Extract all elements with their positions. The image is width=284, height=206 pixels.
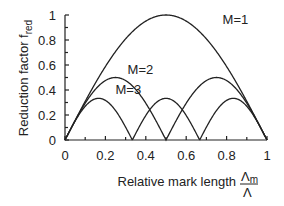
x-axis-label-fraction: Λm Λ	[240, 169, 258, 200]
curve-m2	[65, 78, 267, 141]
y-tick-label: 0.6	[38, 58, 56, 73]
reduction-factor-chart: 00.20.40.60.8100.20.40.60.81 M=1M=2M=3 R…	[0, 0, 284, 206]
x-tick-label: 0.4	[137, 148, 155, 163]
axis-lines	[65, 15, 267, 140]
y-axis-label: Reduction factor fred	[16, 20, 34, 136]
x-tick-label: 0.2	[96, 148, 114, 163]
curve-m3	[65, 98, 267, 140]
y-tick-label: 0.2	[38, 108, 56, 123]
series-label: M=3	[116, 82, 142, 97]
fraction-denominator: Λ	[243, 185, 252, 200]
x-tick-label: 0.6	[177, 148, 195, 163]
fraction-numerator: Λm	[241, 169, 258, 185]
x-axis-label: Relative mark length	[118, 174, 237, 189]
curves	[65, 15, 267, 140]
y-tick-label: 0.8	[38, 33, 56, 48]
axes: 00.20.40.60.8100.20.40.60.81	[38, 8, 271, 164]
series-label: M=2	[128, 62, 154, 77]
x-tick-label: 0	[61, 148, 68, 163]
x-tick-label: 1	[263, 148, 270, 163]
series-labels: M=1M=2M=3	[116, 12, 249, 97]
curve-m1	[65, 15, 267, 140]
y-tick-label: 0	[49, 133, 56, 148]
y-tick-label: 0.4	[38, 83, 56, 98]
series-label: M=1	[223, 12, 249, 27]
x-tick-label: 0.8	[218, 148, 236, 163]
y-tick-label: 1	[49, 8, 56, 23]
